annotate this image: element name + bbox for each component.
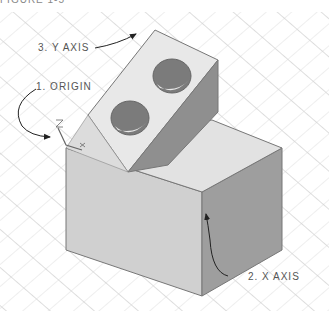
- hole-upper: [153, 59, 191, 93]
- figure-title: FIGURE 1-5: [0, 0, 65, 5]
- figure-canvas: FIGURE 1-5 1. ORIGIN 2. X AXIS 3. Y AXIS: [0, 0, 329, 311]
- callout-x-axis: 2. X AXIS: [248, 271, 300, 282]
- callout-origin: 1. ORIGIN: [36, 81, 92, 92]
- hole-lower: [111, 101, 149, 135]
- callout-y-axis: 3. Y AXIS: [38, 42, 89, 53]
